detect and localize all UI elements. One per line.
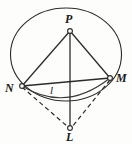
- segment-label-l: l: [50, 85, 53, 96]
- vertex-label-p: P: [65, 13, 72, 25]
- vertex-marker-p: [68, 29, 73, 34]
- vertex-label-m: M: [116, 72, 127, 84]
- edge-m-l-dashed: [72, 80, 110, 127]
- edge-n-l-dashed: [22, 87, 68, 127]
- edge-p-n: [22, 31, 70, 86]
- arc-n-m: [22, 78, 110, 98]
- vertex-marker-n: [20, 84, 25, 89]
- vertex-marker-m: [108, 76, 113, 81]
- geometry-figure: P N M L l: [0, 0, 132, 144]
- vertex-label-l: L: [66, 131, 73, 143]
- edge-n-m: [22, 78, 110, 86]
- edge-p-m: [70, 31, 110, 78]
- vertex-label-n: N: [5, 82, 14, 94]
